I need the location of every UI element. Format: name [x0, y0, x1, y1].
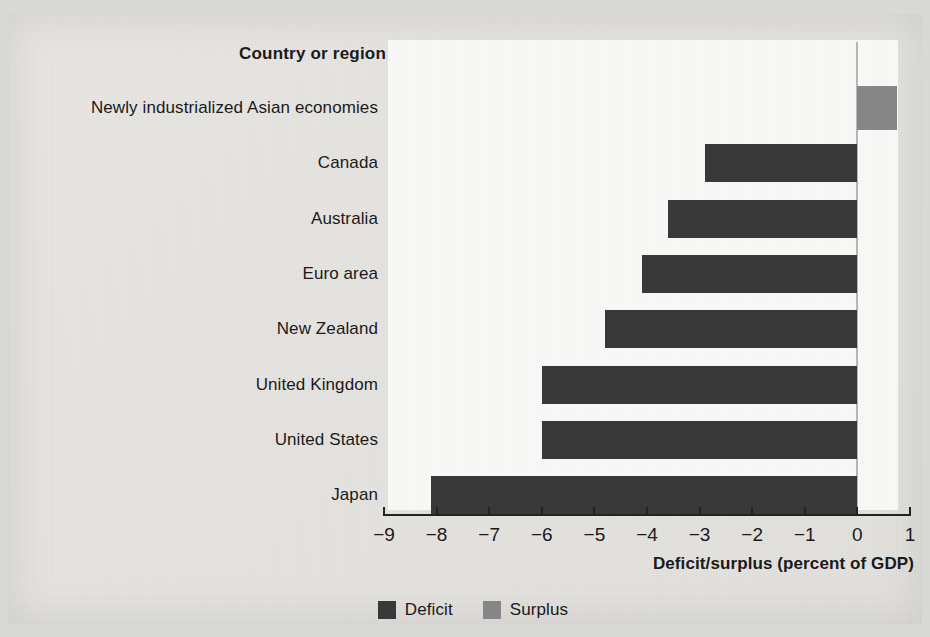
x-axis-tick-label: −7	[478, 524, 500, 546]
bar	[605, 310, 857, 348]
scanned-page-sheet: Country or region Newly industrialized A…	[8, 14, 922, 624]
x-axis-title: Deficit/surplus (percent of GDP)	[438, 554, 914, 574]
bar	[542, 366, 858, 404]
chart-legend: DeficitSurplus	[8, 600, 930, 620]
x-axis-tick	[436, 507, 438, 516]
legend-label: Surplus	[510, 600, 568, 620]
x-axis-tick	[541, 507, 543, 516]
bar	[542, 421, 858, 459]
bar	[705, 144, 858, 182]
x-axis-tick-label: −4	[636, 524, 658, 546]
bar-chart-figure: Country or region Newly industrialized A…	[8, 14, 922, 624]
legend-swatch-icon	[483, 601, 501, 619]
bar	[431, 476, 857, 514]
x-axis-tick	[804, 507, 806, 516]
legend-item: Surplus	[483, 600, 568, 620]
legend-swatch-icon	[378, 601, 396, 619]
x-axis-tick-label: −5	[584, 524, 606, 546]
x-axis-tick	[909, 507, 911, 516]
bar	[642, 255, 858, 293]
x-axis-tick-label: −8	[426, 524, 448, 546]
x-axis-tick	[646, 507, 648, 516]
x-axis-tick-label: −9	[373, 524, 395, 546]
x-axis-tick-label: −2	[741, 524, 763, 546]
x-axis-tick	[751, 507, 753, 516]
x-axis-tick-label: −3	[689, 524, 711, 546]
bar	[857, 86, 896, 130]
legend-item: Deficit	[378, 600, 453, 620]
x-axis-tick-label: −1	[794, 524, 816, 546]
x-axis-tick-label: 1	[905, 524, 916, 546]
x-axis-tick	[699, 507, 701, 516]
legend-label: Deficit	[405, 600, 453, 620]
x-axis-tick	[383, 507, 385, 516]
x-axis-tick	[856, 507, 858, 516]
x-axis-tick-label: 0	[852, 524, 863, 546]
x-axis-tick	[593, 507, 595, 516]
bar	[668, 200, 857, 238]
x-axis-tick-label: −6	[531, 524, 553, 546]
x-axis-tick	[488, 507, 490, 516]
bars-layer	[8, 14, 930, 514]
